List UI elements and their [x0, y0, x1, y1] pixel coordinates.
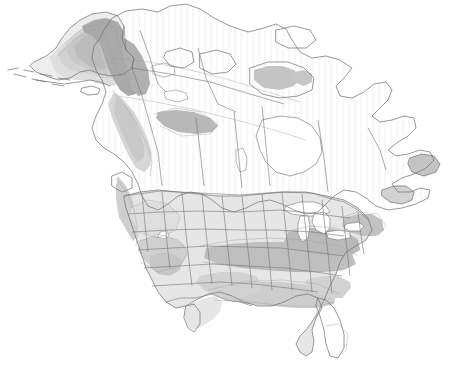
map-canvas: North America Zone Map [0, 0, 455, 378]
north-america-map [0, 0, 455, 378]
water-lake-michigan [298, 216, 310, 242]
